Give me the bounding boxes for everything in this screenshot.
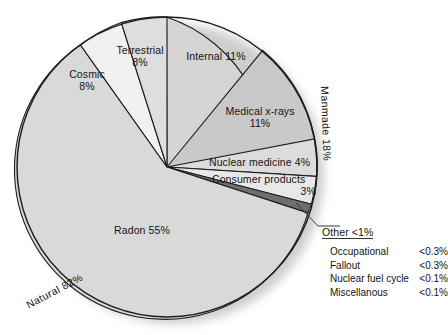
legend-item-name: Miscellanous [330,286,413,300]
legend-row: Miscellanous <0.1% [330,286,448,300]
legend-item-value: <0.1% [413,286,448,300]
legend-item-value: <0.1% [413,272,448,286]
legend-item-name: Nuclear fuel cycle [330,272,413,286]
legend-item-value: <0.3% [413,259,448,273]
legend-item-name: Fallout [330,259,413,273]
other-legend-title: Other <1% [322,226,373,239]
legend-item-value: <0.3% [413,245,448,259]
legend-row: Fallout <0.3% [330,259,448,273]
legend-item-name: Occupational [330,245,413,259]
legend-row: Nuclear fuel cycle <0.1% [330,272,448,286]
other-legend: Other <1% Occupational <0.3% Fallout <0.… [322,222,447,299]
legend-row: Occupational <0.3% [330,245,448,259]
other-legend-table: Occupational <0.3% Fallout <0.3% Nuclear… [330,245,448,299]
label-group-manmade: Manmade 18% [319,86,334,161]
